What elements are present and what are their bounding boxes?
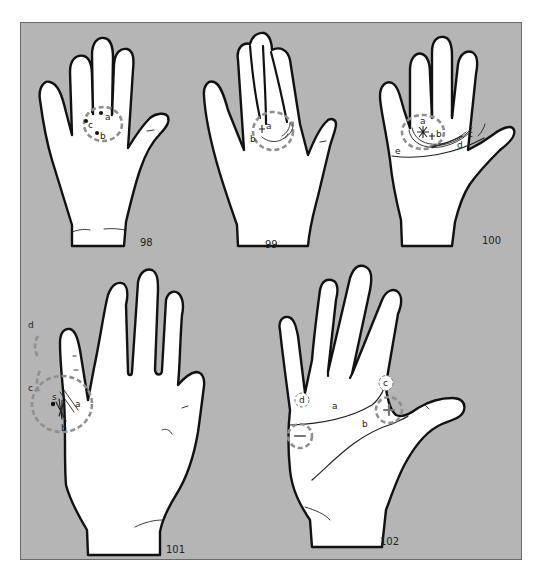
hand-100-label-b: b (436, 129, 442, 139)
hand-98: a b c 98 (40, 38, 169, 248)
hand-100-caption: 100 (482, 235, 501, 246)
hand-101-dot-s (51, 402, 55, 406)
hand-99-caption: 99 (265, 239, 278, 250)
hand-99-outline (204, 33, 336, 246)
hand-101-outline (60, 270, 204, 556)
hand-102-label-c: c (383, 378, 388, 388)
hand-101-dashed-arc-c (37, 371, 40, 394)
hand-98-caption: 98 (140, 237, 153, 248)
hand-101-caption: 101 (166, 544, 185, 555)
hand-102-label-d: d (299, 395, 305, 405)
hand-101-label-c: c (28, 383, 33, 393)
hand-101-dashed-arc-d (35, 336, 38, 357)
hand-102-outline (279, 266, 464, 547)
hand-102-label-b: b (362, 419, 368, 429)
hand-98-label-c: c (88, 120, 93, 130)
hand-101-label-s: s (52, 392, 57, 402)
hand-101-label-d: d (28, 320, 34, 330)
palmistry-figure: a b c 98 a b 99 a b c d e (0, 0, 545, 584)
hand-100: a b c d e 100 (380, 37, 514, 246)
hand-98-dot-b (95, 131, 99, 135)
hand-99-label-a: a (266, 121, 272, 131)
hand-99: a b 99 (204, 33, 336, 250)
hand-99-label-b: b (250, 134, 256, 144)
hand-102-label-a: a (332, 401, 338, 411)
hand-98-label-b: b (100, 131, 106, 141)
hand-100-label-e: e (395, 146, 401, 156)
hand-100-label-a: a (420, 116, 426, 126)
hand-102-caption: 102 (380, 536, 399, 547)
hand-100-label-c: c (468, 129, 473, 139)
hand-98-label-a: a (105, 112, 111, 122)
hand-100-line-c (478, 124, 485, 136)
hand-100-label-d: d (457, 140, 463, 150)
hand-100-outline (380, 37, 514, 246)
hand-101: a b c d s 101 (28, 270, 204, 556)
hand-101-label-a: a (75, 399, 81, 409)
hand-101-label-b: b (61, 423, 67, 433)
hand-102: c d a b 102 (279, 266, 464, 547)
hand-98-dot-a (99, 111, 103, 115)
